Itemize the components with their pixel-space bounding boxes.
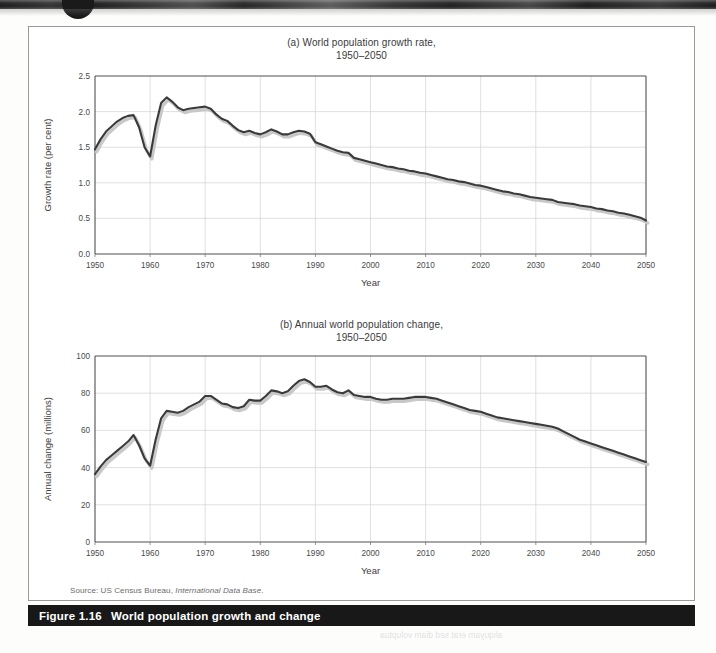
xtick-label: 2050 xyxy=(637,549,656,558)
xtick-label: 1970 xyxy=(196,261,215,270)
ytick-label: 100 xyxy=(76,352,90,361)
xtick-label: 2020 xyxy=(472,549,491,558)
ytick-label: 80 xyxy=(81,389,91,398)
caption-number: Figure 1.16 xyxy=(39,610,102,622)
series-shadow-panel-a xyxy=(97,100,648,223)
xtick-label: 1980 xyxy=(251,261,270,270)
xtick-label: 2050 xyxy=(637,261,656,270)
xtick-label: 1960 xyxy=(141,261,160,270)
figure-container: (a) World population growth rate, 1950–2… xyxy=(28,26,695,601)
panel-a: (a) World population growth rate, 1950–2… xyxy=(29,27,694,302)
ytick-label: 1.0 xyxy=(79,179,91,188)
yaxis-label: Annual change (millions) xyxy=(42,397,53,501)
xtick-label: 2000 xyxy=(361,261,380,270)
caption-text: World population growth and change xyxy=(111,610,321,622)
xtick-label: 2000 xyxy=(361,549,380,558)
xaxis-label: Year xyxy=(361,565,380,576)
xtick-label: 1970 xyxy=(196,549,215,558)
xtick-label: 2030 xyxy=(527,549,546,558)
xtick-label: 1990 xyxy=(306,549,325,558)
panel-b-svg: 0204060801001950196019701980199020002010… xyxy=(29,344,696,589)
ytick-label: 20 xyxy=(81,501,91,510)
panel-b-title-line2: 1950–2050 xyxy=(29,331,694,344)
xtick-label: 2040 xyxy=(582,549,601,558)
xaxis-label: Year xyxy=(361,277,380,288)
ytick-label: 0.0 xyxy=(79,250,91,259)
ytick-label: 60 xyxy=(81,426,91,435)
panel-b: (b) Annual world population change, 1950… xyxy=(29,302,694,589)
yaxis-label: Growth rate (per cent) xyxy=(42,119,53,212)
panel-a-svg: 0.00.51.01.52.02.51950196019701980199020… xyxy=(29,62,696,302)
panel-b-title-line1: (b) Annual world population change, xyxy=(29,318,694,331)
xtick-label: 2010 xyxy=(416,261,435,270)
source-note: Source: US Census Bureau, International … xyxy=(70,586,264,595)
ytick-label: 0 xyxy=(85,538,90,547)
ytick-label: 0.5 xyxy=(79,214,91,223)
panel-b-plot: 0204060801001950196019701980199020002010… xyxy=(29,344,694,589)
ytick-label: 2.5 xyxy=(79,72,91,81)
scan-smudge xyxy=(0,9,716,16)
panel-a-title-line1: (a) World population growth rate, xyxy=(29,36,694,49)
xtick-label: 1960 xyxy=(141,549,160,558)
xtick-label: 1950 xyxy=(86,261,105,270)
series-shadow-panel-b xyxy=(97,382,648,477)
xtick-label: 1980 xyxy=(251,549,270,558)
scanned-page-edge xyxy=(0,0,716,9)
panel-a-title: (a) World population growth rate, 1950–2… xyxy=(29,36,694,62)
source-prefix: Source: US Census Bureau, xyxy=(70,586,173,595)
xtick-label: 2030 xyxy=(527,261,546,270)
source-italic-title: International Data Base xyxy=(175,586,261,595)
source-suffix: . xyxy=(261,586,263,595)
xtick-label: 1990 xyxy=(306,261,325,270)
panel-b-title: (b) Annual world population change, 1950… xyxy=(29,318,694,344)
xtick-label: 1950 xyxy=(86,549,105,558)
scan-noise-overlay xyxy=(0,0,716,9)
ytick-label: 2.0 xyxy=(79,108,91,117)
panel-a-title-line2: 1950–2050 xyxy=(29,49,694,62)
xtick-label: 2020 xyxy=(472,261,491,270)
xtick-label: 2010 xyxy=(416,549,435,558)
ytick-label: 40 xyxy=(81,464,91,473)
ytick-label: 1.5 xyxy=(79,143,91,152)
panel-a-plot: 0.00.51.01.52.02.51950196019701980199020… xyxy=(29,62,694,302)
xtick-label: 2040 xyxy=(582,261,601,270)
figure-caption-bar: Figure 1.16 World population growth and … xyxy=(28,605,695,626)
